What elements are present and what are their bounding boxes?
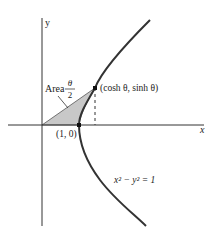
area-label-text: Area bbox=[45, 83, 65, 94]
area-pointer-line bbox=[58, 96, 68, 108]
area-fraction-numerator: θ bbox=[68, 78, 73, 88]
point-marker-cosh-sinh bbox=[93, 86, 97, 90]
hyperbola-curve bbox=[79, 20, 150, 226]
point-label-cosh-sinh: (cosh θ, sinh θ) bbox=[100, 83, 158, 94]
area-fraction-denominator: 2 bbox=[68, 90, 73, 100]
hyperbola-diagram: y x Area θ 2 (cosh θ, sinh θ) (1, 0) x² … bbox=[0, 0, 209, 232]
equation-label: x² − y² = 1 bbox=[113, 175, 155, 185]
point-marker-vertex bbox=[77, 123, 81, 127]
x-axis-label: x bbox=[199, 124, 205, 135]
point-label-vertex: (1, 0) bbox=[56, 129, 77, 140]
y-axis-label: y bbox=[45, 17, 50, 28]
